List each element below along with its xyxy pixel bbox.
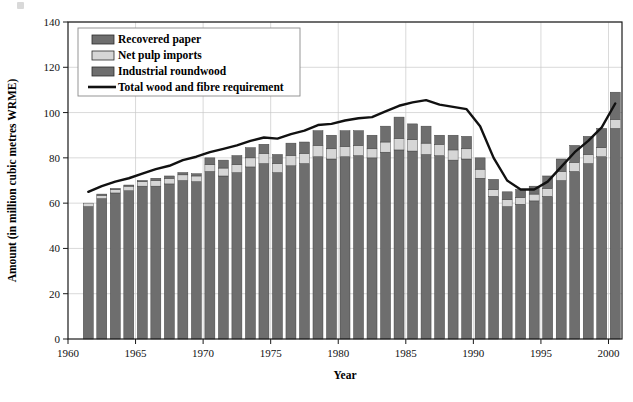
x-tick-label-1970: 1970 <box>192 347 215 359</box>
bar-segment <box>367 149 377 158</box>
bar-segment <box>502 200 512 207</box>
bar-segment <box>272 173 282 339</box>
bar-segment <box>326 159 336 339</box>
chart-container: 0204060801001201401960196519701975198019… <box>0 0 633 402</box>
bar-segment <box>543 188 553 196</box>
bar-segment <box>556 171 566 180</box>
bar-segment <box>232 156 242 165</box>
bar-segment <box>462 136 472 148</box>
x-tick-label-1990: 1990 <box>462 347 485 359</box>
bar-segment <box>489 190 499 197</box>
legend-swatch-icon <box>92 35 114 44</box>
bar-segment <box>354 131 364 146</box>
bar-segment <box>394 150 404 339</box>
bar-segment <box>381 152 391 339</box>
bar-segment <box>326 135 336 149</box>
legend-item[interactable]: Total wood and fibre requirement <box>88 81 284 94</box>
bar-segment <box>259 144 269 153</box>
y-tick-label-80: 80 <box>49 152 61 164</box>
bar-segment <box>435 144 445 155</box>
bar-segment <box>408 140 418 151</box>
bar-segment <box>245 167 255 339</box>
bar-segment <box>475 169 485 178</box>
bar-segment <box>381 126 391 142</box>
bar-segment <box>367 158 377 339</box>
bar-segment <box>502 192 512 200</box>
bar-segment <box>218 160 228 168</box>
bar-segment <box>435 135 445 144</box>
bar-segment <box>408 151 418 339</box>
bar-segment <box>83 207 93 339</box>
bar-segment <box>124 186 134 191</box>
x-axis-title: Year <box>334 369 357 381</box>
legend-swatch-icon <box>92 67 114 76</box>
bar-segment <box>164 176 174 178</box>
bar-segment <box>354 145 364 155</box>
bar-segment <box>232 173 242 339</box>
bar-segment <box>205 158 215 165</box>
bar-segment <box>367 135 377 149</box>
bar-segment <box>259 164 269 339</box>
bar-segment <box>529 201 539 339</box>
bar-segment <box>137 182 147 187</box>
y-tick-label-100: 100 <box>44 107 61 119</box>
x-tick-label-1995: 1995 <box>530 347 553 359</box>
bar-segment <box>245 158 255 167</box>
scan-artifact <box>17 2 24 9</box>
bar-segment <box>583 164 593 339</box>
bar-segment <box>475 158 485 169</box>
bar-segment <box>421 143 431 154</box>
bar-segment <box>245 148 255 158</box>
bar-segment <box>232 165 242 173</box>
bar-segment <box>299 153 309 163</box>
bar-segment <box>394 117 404 139</box>
bar-segment <box>205 165 215 172</box>
y-axis-title: Amount (in million cubic metres WRME) <box>6 78 19 282</box>
bar-segment <box>205 171 215 339</box>
bar-segment <box>597 148 607 157</box>
bar-segment <box>164 178 174 184</box>
bar-segment <box>610 128 620 339</box>
bar-segment <box>110 188 120 189</box>
x-tick-label-1960: 1960 <box>57 347 80 359</box>
bar-segment <box>191 174 201 176</box>
bar-segment <box>408 124 418 140</box>
bar-segment <box>354 156 364 339</box>
bar-segment <box>97 199 107 339</box>
bar-segment <box>543 196 553 339</box>
bar-segment <box>421 126 431 143</box>
legend-item[interactable]: Net pulp imports <box>92 49 202 62</box>
bar-segment <box>110 193 120 339</box>
bar-segment <box>556 181 566 340</box>
legend-item[interactable]: Recovered paper <box>92 33 201 46</box>
bar-segment <box>124 191 134 339</box>
bar-segment <box>178 173 188 175</box>
bar-segment <box>299 142 309 153</box>
bar-segment <box>313 157 323 339</box>
bar-segment <box>448 160 458 339</box>
bar-segment <box>516 204 526 339</box>
bar-segment <box>137 181 147 182</box>
x-tick-label-1965: 1965 <box>125 347 148 359</box>
x-tick-label-1975: 1975 <box>260 347 283 359</box>
bar-segment <box>191 182 201 339</box>
y-tick-label-0: 0 <box>55 333 61 345</box>
bar-segment <box>178 181 188 340</box>
bar-segment <box>570 162 580 171</box>
bar-segment <box>394 139 404 150</box>
bar-segment <box>313 131 323 146</box>
bar-segment <box>340 147 350 157</box>
bar-segment <box>137 186 147 339</box>
bar-segment <box>570 171 580 339</box>
bar-segment <box>597 157 607 339</box>
bar-segment <box>448 135 458 150</box>
bar-segment <box>286 166 296 339</box>
legend-item[interactable]: Industrial roundwood <box>92 65 227 77</box>
bar-segment <box>583 154 593 163</box>
bar-segment <box>529 194 539 201</box>
x-tick-label-1985: 1985 <box>395 347 418 359</box>
bar-segment <box>151 186 161 339</box>
bar-segment <box>124 185 134 186</box>
stacked-bar-chart: 0204060801001201401960196519701975198019… <box>0 0 633 402</box>
bar-segment <box>462 159 472 339</box>
